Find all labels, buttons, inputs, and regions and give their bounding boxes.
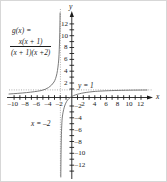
y-tick-label: 12 — [61, 21, 68, 28]
horizontal-asymptote-label: y = 1 — [78, 82, 94, 89]
x-axis-label: x — [156, 93, 159, 101]
formula-fraction: x(x + 1) (x + 1)(x +2) — [10, 37, 51, 57]
x-tick-label: 10 — [125, 101, 132, 108]
y-tick-label: 6 — [64, 56, 68, 63]
y-tick-label: 10 — [61, 33, 68, 40]
y-tick-label: 2 — [64, 80, 68, 87]
y-tick-label: 8 — [64, 44, 68, 51]
function-formula: g(x) = x(x + 1) (x + 1)(x +2) — [10, 26, 51, 57]
y-tick-label: –12 — [75, 162, 86, 169]
vertical-asymptote-label: x = –2 — [31, 120, 50, 127]
x-tick-label: –2 — [56, 101, 63, 108]
y-tick-label: –4 — [75, 115, 82, 122]
x-tick-label: 12 — [137, 101, 144, 108]
formula-head: g(x) = — [12, 26, 51, 35]
x-tick-label: 4 — [93, 101, 97, 108]
x-tick-label: –4 — [44, 101, 51, 108]
y-tick-label: –8 — [75, 139, 82, 146]
y-axis — [70, 11, 75, 179]
formula-numerator: x(x + 1) — [10, 37, 51, 47]
formula-denominator: (x + 1)(x +2) — [10, 46, 51, 57]
y-tick-label: 4 — [64, 68, 68, 75]
x-tick-label: –8 — [22, 101, 29, 108]
x-tick-label: –10 — [8, 101, 19, 108]
y-tick-label: –6 — [75, 127, 82, 134]
rational-function-figure: g(x) = x(x + 1) (x + 1)(x +2) x y y = 1 … — [0, 0, 167, 182]
x-tick-label: 8 — [116, 101, 120, 108]
y-tick-label: –2 — [75, 103, 82, 110]
x-tick-label: –6 — [33, 101, 40, 108]
y-axis-label: y — [69, 3, 72, 11]
y-tick-label: –10 — [75, 150, 86, 157]
x-tick-label: 6 — [104, 101, 108, 108]
